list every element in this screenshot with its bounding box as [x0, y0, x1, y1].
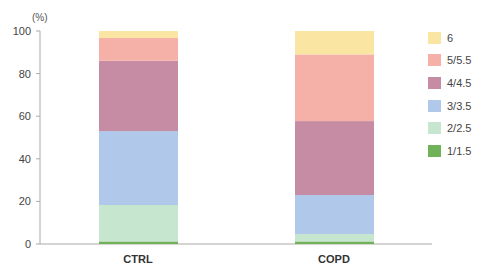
legend-label: 2/2.5	[447, 122, 471, 134]
legend-label: 5/5.5	[447, 54, 471, 66]
y-tick-label-80: 80	[3, 68, 31, 80]
y-tick-label-60: 60	[3, 110, 31, 122]
bar-segment-copd-2-2.5	[295, 234, 374, 241]
legend-swatch	[428, 145, 441, 157]
y-tick-label-20: 20	[3, 195, 31, 207]
bar-segment-ctrl-2-2.5	[99, 205, 178, 241]
legend-swatch	[428, 77, 441, 89]
legend-label: 3/3.5	[447, 100, 471, 112]
legend-item-4-4.5: 4/4.5	[428, 76, 471, 89]
category-label-copd: COPD	[294, 253, 374, 265]
legend-swatch	[428, 32, 441, 44]
bar-segment-ctrl-5-5.5	[99, 38, 178, 61]
y-tick-label-0: 0	[3, 238, 31, 250]
bar-segment-ctrl-1-1.5	[99, 241, 178, 244]
plot-area	[0, 0, 479, 273]
bar-segment-copd-1-1.5	[295, 241, 374, 244]
y-ticks	[36, 31, 40, 244]
legend-label: 1/1.5	[447, 145, 471, 157]
y-tick-label-40: 40	[3, 153, 31, 165]
y-tick-label-100: 100	[3, 25, 31, 37]
legend-swatch	[428, 54, 441, 66]
bar-segment-ctrl-6	[99, 31, 178, 38]
legend-item-2-2.5: 2/2.5	[428, 121, 471, 134]
legend-item-6: 6	[428, 31, 453, 44]
legend-item-5-5.5: 5/5.5	[428, 53, 471, 66]
bar-segment-copd-3-3.5	[295, 195, 374, 234]
legend-label: 4/4.5	[447, 77, 471, 89]
y-axis-unit-label: (%)	[32, 12, 48, 23]
legend-item-3-3.5: 3/3.5	[428, 99, 471, 112]
legend-swatch	[428, 100, 441, 112]
bar-segment-copd-4-4.5	[295, 121, 374, 195]
bar-segment-copd-5-5.5	[295, 54, 374, 121]
legend-swatch	[428, 122, 441, 134]
bar-segment-ctrl-4-4.5	[99, 61, 178, 131]
bar-segment-ctrl-3-3.5	[99, 131, 178, 205]
legend-item-1-1.5: 1/1.5	[428, 144, 471, 157]
bar-segment-copd-6	[295, 31, 374, 54]
legend-label: 6	[447, 32, 453, 44]
stacked-bar-chart: (%) 100 80 60 40 20 0 CTRL COPD 6 5/5.5 …	[0, 0, 479, 273]
bars	[99, 31, 374, 244]
category-label-ctrl: CTRL	[98, 253, 178, 265]
